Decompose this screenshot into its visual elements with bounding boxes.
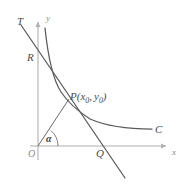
y-intercept-label-r: R xyxy=(27,52,34,63)
point-p-label: P(x0,y0) xyxy=(70,91,107,104)
curve-label-c: C xyxy=(155,124,162,135)
angle-label-alpha: α xyxy=(46,134,52,144)
origin-label: O xyxy=(28,149,35,159)
point-p-name: P xyxy=(70,90,77,102)
x-axis-label: x xyxy=(172,148,176,157)
point-p-close-paren: ) xyxy=(103,90,107,102)
tangent-line-diagram: T y x R P(x0,y0) Q C α O xyxy=(0,0,188,187)
y-axis-label: y xyxy=(46,14,50,23)
x-intercept-label-q: Q xyxy=(96,148,104,159)
point-p-comma: , xyxy=(89,90,92,102)
tangent-line-label: T xyxy=(17,16,23,27)
curve-c xyxy=(45,28,152,129)
ray-op xyxy=(38,99,69,146)
